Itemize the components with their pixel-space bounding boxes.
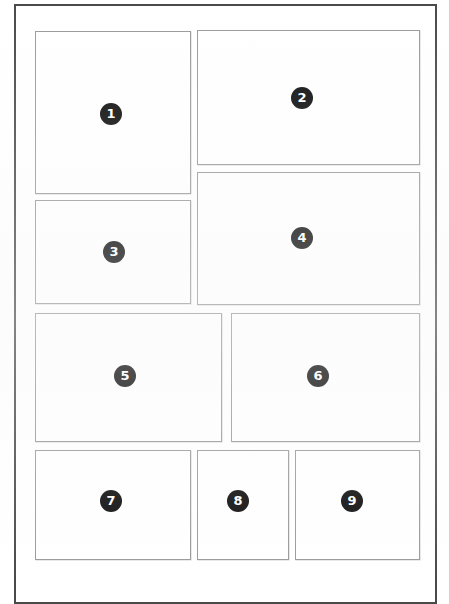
box-9-number-badge: 9 [341,490,363,512]
box-1-number-badge: 1 [100,103,122,125]
box-8-number-badge: 8 [227,490,249,512]
box-4-number-badge: 4 [291,227,313,249]
box-6-number-badge: 6 [307,365,329,387]
box-7-number-badge: 7 [100,490,122,512]
box-3-number-badge: 3 [103,241,125,263]
page-frame: 123456789 [14,4,437,604]
box-2-number-badge: 2 [291,87,313,109]
box-5-number-badge: 5 [114,365,136,387]
